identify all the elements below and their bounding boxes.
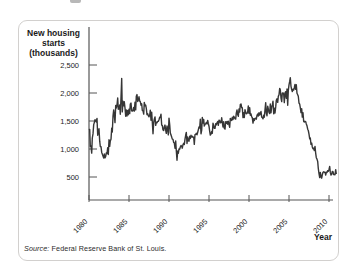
y-tick-label: 2,000 — [60, 89, 79, 98]
x-axis-label: Year — [314, 232, 333, 242]
x-tick-label: 2005 — [271, 217, 289, 235]
x-tick-label: 1980 — [71, 217, 89, 235]
source-note-text: Federal Reserve Bank of St. Louis. — [52, 244, 167, 253]
housing-starts-chart: 5001,0001,5002,0002,500 1980198519901995… — [19, 21, 338, 260]
housing-starts-series-line — [89, 78, 336, 179]
x-tick-label: 1990 — [151, 217, 169, 235]
y-tick-label: 2,500 — [60, 61, 79, 70]
x-tick-label: 2000 — [231, 217, 249, 235]
source-note: Source: Federal Reserve Bank of St. Loui… — [24, 244, 324, 253]
y-axis-ticks: 5001,0001,5002,0002,500 — [60, 61, 97, 182]
x-tick-label: 1995 — [191, 217, 209, 235]
x-tick-label: 1985 — [111, 217, 129, 235]
y-tick-label: 1,500 — [60, 117, 79, 126]
cropped-content-artifact — [70, 0, 81, 3]
source-note-label: Source: — [24, 244, 49, 253]
y-tick-label: 500 — [66, 173, 79, 182]
y-tick-label: 1,000 — [60, 145, 79, 154]
housing-starts-figure-card: New housing starts (thousands) 5001,0001… — [18, 20, 339, 261]
x-axis-ticks: 1980198519901995200020052010 — [71, 195, 329, 235]
